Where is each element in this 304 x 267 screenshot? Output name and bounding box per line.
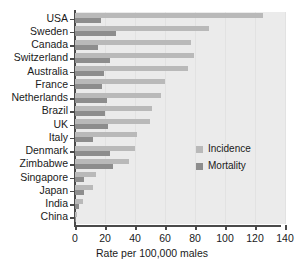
x-tick-40	[135, 225, 137, 230]
chart-legend: Incidence Mortality	[196, 143, 251, 177]
y-label-switzerland: Switzerland	[14, 52, 68, 63]
bar-rows	[75, 12, 285, 224]
bar-mortality-sweden	[75, 31, 116, 36]
bar-row	[75, 146, 285, 159]
bar-row	[75, 159, 285, 172]
bar-row	[75, 53, 285, 66]
bar-row	[75, 185, 285, 198]
x-tick-label-40: 40	[129, 232, 141, 244]
x-tick-80	[195, 225, 197, 230]
y-label-japan: Japan	[39, 185, 68, 196]
x-tick-140	[285, 225, 287, 230]
chart-figure: USASwedenCanadaSwitzerlandAustraliaFranc…	[0, 0, 304, 267]
bar-mortality-china	[75, 217, 76, 222]
y-label-canada: Canada	[31, 39, 68, 50]
bar-row	[75, 132, 285, 145]
y-label-china: China	[41, 211, 68, 222]
bar-row	[75, 93, 285, 106]
bar-row	[75, 40, 285, 53]
x-tick-label-80: 80	[189, 232, 201, 244]
x-tick-0	[75, 225, 77, 230]
x-axis-title: Rate per 100,000 males	[0, 247, 304, 259]
x-tick-label-60: 60	[159, 232, 171, 244]
bar-mortality-italy	[75, 137, 93, 142]
bar-row	[75, 79, 285, 92]
x-tick-label-100: 100	[216, 232, 234, 244]
x-tick-label-20: 20	[99, 232, 111, 244]
x-tick-label-140: 140	[276, 232, 294, 244]
bar-mortality-zimbabwe	[75, 164, 113, 169]
y-label-france: France	[35, 79, 68, 90]
y-label-india: India	[45, 198, 68, 209]
y-label-italy: Italy	[49, 132, 68, 143]
x-tick-label-0: 0	[72, 232, 78, 244]
y-label-uk: UK	[53, 119, 68, 130]
y-label-usa: USA	[46, 13, 68, 24]
x-tick-60	[165, 225, 167, 230]
y-label-zimbabwe: Zimbabwe	[20, 158, 68, 169]
x-tick-label-120: 120	[246, 232, 264, 244]
y-label-singapore: Singapore	[20, 172, 68, 183]
bar-row	[75, 13, 285, 26]
bar-row	[75, 119, 285, 132]
bar-mortality-japan	[75, 190, 84, 195]
y-label-denmark: Denmark	[25, 145, 68, 156]
bar-mortality-australia	[75, 71, 104, 76]
bar-row	[75, 199, 285, 212]
legend-swatch-incidence	[196, 146, 203, 153]
bar-mortality-brazil	[75, 111, 105, 116]
bar-mortality-canada	[75, 45, 98, 50]
bar-row	[75, 106, 285, 119]
x-tick-100	[225, 225, 227, 230]
legend-item-mortality: Mortality	[196, 160, 251, 172]
bar-mortality-india	[75, 204, 79, 209]
y-label-australia: Australia	[27, 66, 68, 77]
bar-row	[75, 172, 285, 185]
y-label-brazil: Brazil	[42, 105, 68, 116]
bar-mortality-denmark	[75, 151, 110, 156]
legend-item-incidence: Incidence	[196, 143, 251, 155]
legend-label-incidence: Incidence	[208, 143, 251, 155]
bar-row	[75, 66, 285, 79]
x-tick-20	[105, 225, 107, 230]
y-label-netherlands: Netherlands	[11, 92, 68, 103]
bar-mortality-netherlands	[75, 98, 107, 103]
bar-mortality-switzerland	[75, 58, 110, 63]
gridline-140	[285, 12, 286, 224]
bar-mortality-uk	[75, 124, 108, 129]
bar-incidence-usa	[75, 13, 263, 18]
bar-mortality-singapore	[75, 177, 84, 182]
x-tick-120	[255, 225, 257, 230]
legend-label-mortality: Mortality	[208, 160, 246, 172]
bar-row	[75, 26, 285, 39]
bar-row	[75, 212, 285, 225]
bar-mortality-usa	[75, 18, 101, 23]
y-label-sweden: Sweden	[30, 26, 68, 37]
bar-mortality-france	[75, 84, 102, 89]
legend-swatch-mortality	[196, 163, 203, 170]
